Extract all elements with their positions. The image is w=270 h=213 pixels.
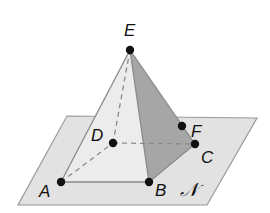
point-b [145,178,153,186]
label-e: E [124,21,136,40]
label-b: B [155,181,166,200]
label-f: F [191,122,203,141]
label-d: D [91,126,103,145]
point-d [109,139,117,147]
pyramid-diagram: E A B C D F 𝒩 [0,0,270,213]
point-a [57,178,65,186]
label-c: C [201,148,214,167]
point-e [126,46,134,54]
point-f [178,122,186,130]
point-c [191,140,199,148]
label-a: A [38,182,50,201]
